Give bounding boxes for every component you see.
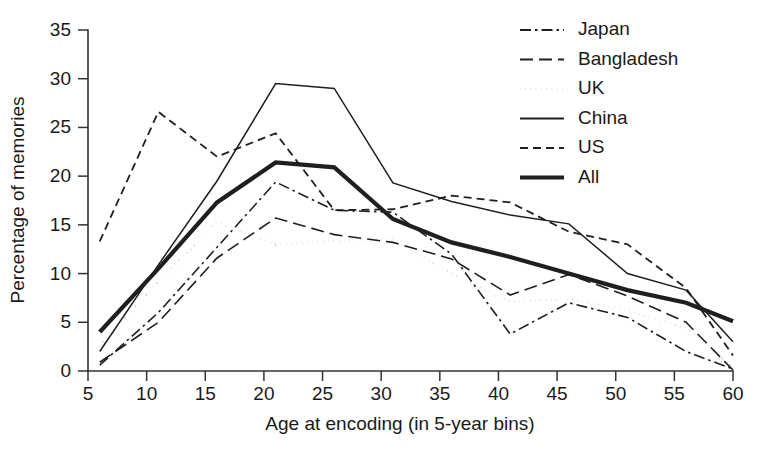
series-line-japan [100,182,733,369]
series-line-china [100,84,733,352]
y-tick-label: 20 [50,165,71,186]
y-axis-title: Percentage of memories [7,97,28,304]
legend-label-china: China [578,107,628,128]
y-tick-label: 0 [60,360,71,381]
x-tick-label: 40 [488,383,509,404]
series-line-all [100,163,733,333]
x-tick-label: 50 [605,383,626,404]
y-tick-marks: 05101520253035 [50,19,88,381]
x-tick-label: 25 [312,383,333,404]
legend-label-all: All [578,166,599,187]
x-tick-label: 5 [83,383,94,404]
y-axis-group: 05101520253035 [50,19,88,381]
legend-label-japan: Japan [578,18,630,39]
x-tick-label: 10 [136,383,157,404]
x-axis-title: Age at encoding (in 5-year bins) [265,413,534,434]
chart-figure: Percentage of memories Age at encoding (… [0,0,766,453]
x-tick-label: 30 [371,383,392,404]
y-tick-label: 30 [50,68,71,89]
legend-label-bangladesh: Bangladesh [578,48,678,69]
y-tick-label: 15 [50,214,71,235]
legend-label-uk: UK [578,77,605,98]
legend-label-us: US [578,136,604,157]
y-tick-label: 25 [50,116,71,137]
x-tick-label: 35 [429,383,450,404]
line-chart: Percentage of memories Age at encoding (… [0,0,766,453]
y-tick-label: 35 [50,19,71,40]
series-line-us [100,112,733,356]
data-series-group [100,84,733,370]
chart-legend: JapanBangladeshUKChinaUSAll [520,18,678,187]
x-tick-label: 45 [547,383,568,404]
x-tick-label: 20 [253,383,274,404]
x-axis-group: 51015202530354045505560 [83,371,744,404]
x-tick-label: 60 [722,383,743,404]
x-tick-marks: 51015202530354045505560 [83,371,744,404]
y-tick-label: 10 [50,263,71,284]
x-tick-label: 55 [664,383,685,404]
y-tick-label: 5 [60,311,71,332]
x-tick-label: 15 [195,383,216,404]
